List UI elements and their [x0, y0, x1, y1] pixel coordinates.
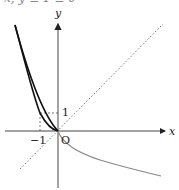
curve-parabola-refined: [15, 25, 58, 131]
y-axis-label: y: [54, 7, 62, 20]
function-graph: y x O −1 1: [0, 0, 179, 190]
x-axis-label: x: [169, 125, 176, 138]
line-y-equals-x: [20, 24, 163, 169]
curve-parabola: [15, 25, 58, 131]
tick-label-y-one: 1: [62, 106, 69, 119]
curve-inverse: [58, 131, 161, 176]
origin-label: O: [61, 134, 70, 147]
tick-label-x-minus-one: −1: [30, 134, 46, 147]
